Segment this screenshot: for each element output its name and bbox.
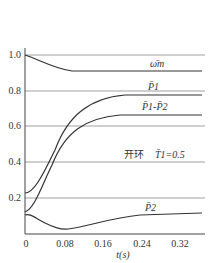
y-tick: 0.6 bbox=[9, 120, 22, 131]
x-tick: 0 bbox=[24, 238, 29, 249]
x-tick: 0.24 bbox=[133, 238, 151, 249]
p2-label: P̄2 bbox=[144, 202, 156, 213]
p2-curve bbox=[25, 213, 202, 229]
x-tick: 0.16 bbox=[94, 238, 112, 249]
p1-curve bbox=[25, 95, 202, 193]
x-tick-labels: 0 0.08 0.16 0.24 0.32 bbox=[24, 238, 189, 249]
gridlines bbox=[25, 55, 205, 198]
x-tick: 0.32 bbox=[171, 238, 189, 249]
y-tick: 0.2 bbox=[9, 192, 22, 203]
p1-minus-p2-curve bbox=[25, 115, 202, 212]
p1-minus-p2-label: P̄1-P̄2 bbox=[141, 101, 168, 112]
x-tick: 0.08 bbox=[56, 238, 74, 249]
t1-label: T̄1=0.5 bbox=[155, 149, 185, 160]
y-tick: 0.8 bbox=[9, 85, 22, 96]
p1-label: P̄1 bbox=[147, 81, 159, 92]
open-loop-label: 开环 bbox=[124, 149, 144, 160]
y-tick-labels: 1.0 0.8 0.6 0.4 0.2 bbox=[9, 49, 22, 203]
y-tick: 1.0 bbox=[9, 49, 22, 60]
x-axis-label: t(s) bbox=[116, 249, 130, 261]
line-chart: 1.0 0.8 0.6 0.4 0.2 0 0.08 0.16 0.24 0.3… bbox=[0, 0, 209, 263]
omega-m-label: ω̄m bbox=[150, 58, 164, 69]
omega-m-curve bbox=[25, 55, 202, 71]
y-tick: 0.4 bbox=[9, 156, 22, 167]
axes bbox=[25, 48, 205, 234]
curves bbox=[25, 55, 202, 229]
